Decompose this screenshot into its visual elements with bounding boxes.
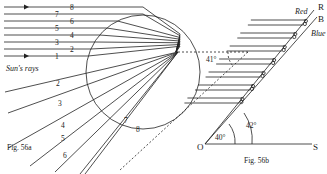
ray-label: 8: [70, 3, 74, 12]
ray-label: 5: [61, 134, 65, 143]
s-label: S: [313, 142, 318, 152]
internal-ray: [91, 45, 180, 50]
arrow-icon: [24, 5, 29, 10]
blue-line: [205, 17, 317, 144]
r-label: R: [318, 2, 324, 12]
outgoing-ray: [8, 52, 178, 113]
ray-label: 5: [55, 24, 59, 33]
arrow-icon: [24, 54, 29, 59]
ray-label: 2: [56, 79, 60, 88]
ray-label: 3: [58, 99, 62, 108]
internal-ray: [143, 7, 180, 34]
internal-ray: [118, 21, 180, 38]
angle-arc-40: [229, 124, 235, 144]
drop-marker: [303, 22, 306, 25]
ray-label: 6: [63, 151, 67, 160]
internal-ray: [95, 42, 180, 43]
ray-label: 2: [70, 45, 74, 54]
internal-ray: [100, 35, 180, 41]
drop-marker: [261, 74, 264, 77]
blue-label: Blue: [311, 29, 326, 38]
outgoing-ray: [55, 52, 178, 172]
angle-42-label: 42°: [246, 121, 257, 130]
b-label: B: [318, 14, 324, 24]
ray-label: 8: [136, 125, 140, 134]
ray-label: 4: [70, 31, 74, 40]
diagram-canvas: 87654321 2345678 41° Sun's rays Fig. 56a…: [0, 0, 327, 174]
outgoing-ray: [80, 52, 178, 174]
ray-label: 4: [61, 121, 65, 130]
ray-label: 1: [55, 52, 59, 61]
dashed-diagonal: [120, 52, 248, 170]
red-label: Red: [294, 7, 308, 16]
drop-marker: [282, 48, 285, 51]
origin-label: O: [197, 142, 204, 152]
parallel-ray-bundles: [184, 19, 307, 103]
rainbow-diagram: 87654321 2345678 41° Sun's rays Fig. 56a…: [0, 0, 327, 174]
ray-label: 6: [70, 17, 74, 26]
drop-marker: [293, 35, 296, 38]
angle-40-label: 40°: [215, 133, 226, 142]
fig-56b-caption: Fig. 56b: [244, 156, 269, 165]
angle-41-label: 41°: [206, 55, 217, 64]
drop-marker: [272, 61, 275, 64]
sun-rays-label: Sun's rays: [6, 64, 39, 73]
fig-56a-caption: Fig. 56a: [7, 143, 32, 152]
ray-label: 3: [55, 38, 59, 47]
ray-label: 7: [55, 10, 59, 19]
